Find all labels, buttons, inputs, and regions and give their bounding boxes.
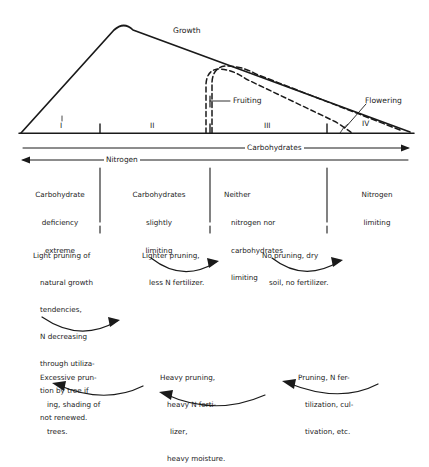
practice-upper-3-line-1: No pruning, dry [262,251,354,260]
zone-numeral-iv: IV [362,119,369,128]
condition-zone-2-line-1: Carbohydrates [119,190,199,199]
practice-upper-2: Lighter pruning, less N fertilizer. [142,233,226,305]
practice-lower-3-line-1: Pruning, N fer- [298,373,388,382]
practice-upper-2-line-1: Lighter pruning, [142,251,226,260]
zone-numeral-iii: III [264,121,271,130]
practice-upper-3: No pruning, dry soil, no fertilizer. [262,233,354,305]
practice-upper-3-line-2: soil, no fertilizer. [262,278,354,287]
carbohydrates-arrowhead [401,145,410,152]
practice-upper-2-line-2: less N fertilizer. [142,278,226,287]
fruiting-curve-label: Fruiting [233,96,262,105]
condition-zone-1-line-1: Carbohydrate [24,190,96,199]
practice-lower-2-line-4: heavy moisture. [160,454,250,463]
practice-upper-1-line-3: tendencies, [33,305,117,314]
condition-zone-3-line-2: nitrogen nor [224,218,324,227]
practice-lower-3: Pruning, N fer- tilization, cul- tivatio… [298,355,388,454]
practice-lower-1-line-2: ing, shading of [40,400,126,409]
practice-lower-3-line-2: tilization, cul- [298,400,388,409]
practice-lower-1: Excessive prun- ing, shading of trees. [40,355,126,454]
condition-zone-3-line-1: Neither [224,190,324,199]
practice-lower-2: Heavy pruning, heavy N ferti- lizer, hea… [160,355,250,467]
arrow-lower-3-head [282,379,296,389]
carbohydrates-axis-label: Carbohydrates [245,143,304,152]
condition-zone-1-line-2: deficiency [24,218,96,227]
condition-zone-2-line-2: slightly [119,218,199,227]
practice-lower-2-line-2: heavy N ferti- [160,400,250,409]
practice-lower-2-line-1: Heavy pruning, [160,373,250,382]
practice-lower-3-line-3: tivation, etc. [298,427,388,436]
practice-lower-1-line-3: trees. [40,427,126,436]
condition-zone-4-line-1: Nitrogen [341,190,413,199]
zone-numeral-i: I [60,121,62,130]
flowering-curve-label: Flowering [365,96,402,105]
practice-upper-1-line-2: natural growth [33,278,117,287]
growth-curve [21,26,410,134]
practice-upper-1-line-4: N decreasing [33,332,117,341]
growth-curve-label: Growth [173,26,201,35]
condition-zone-4-line-2: limiting [341,218,413,227]
nitrogen-axis-label: Nitrogen [104,155,140,164]
practice-upper-1-line-1: Light pruning of [33,251,117,260]
zone-numeral-ii: II [150,121,154,130]
practice-lower-2-line-3: lizer, [160,427,250,436]
nitrogen-arrowhead [21,157,30,164]
practice-lower-1-line-1: Excessive prun- [40,373,126,382]
